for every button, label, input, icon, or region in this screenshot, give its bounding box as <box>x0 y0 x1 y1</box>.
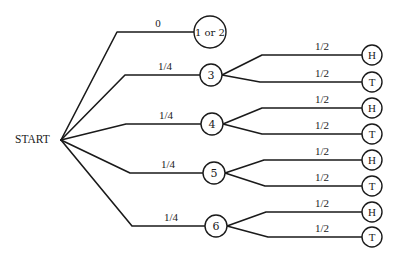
outcome-probability-label: 1/2 <box>315 40 329 52</box>
outcome-probability-label: 1/2 <box>315 67 329 79</box>
outcome-node-3-T: T <box>362 72 382 92</box>
outcome-probability-label: 1/2 <box>315 93 329 105</box>
outcome-edge-3-T <box>222 75 362 82</box>
outcome-edge-6-T <box>227 226 362 237</box>
outcome-probability-label: 1/2 <box>315 171 329 183</box>
branch-edge-4 <box>61 140 203 173</box>
branch-edge-2 <box>61 75 200 140</box>
heads-label: H <box>368 154 376 166</box>
branch-probability-label: 1/4 <box>159 109 174 121</box>
branch-probability-label: 0 <box>155 17 161 29</box>
node-1-or-2: 1 or 2 <box>194 16 226 48</box>
outcome-edge-4-T <box>223 124 362 134</box>
branch-probability-label: 1/4 <box>161 158 176 170</box>
tree-svg: 01/41/41/41/41/21/21/21/21/21/21/21/2 1 … <box>0 0 406 261</box>
node-5: 5 <box>203 162 225 184</box>
node-label: 3 <box>208 69 215 82</box>
branch-edge-3 <box>61 124 201 140</box>
node-6: 6 <box>205 215 227 237</box>
start-label: START <box>15 133 50 145</box>
outcome-edge-6-H <box>227 212 362 226</box>
outcome-node-4-T: T <box>362 124 382 144</box>
node-label: 1 or 2 <box>195 27 225 38</box>
outcome-probability-label: 1/2 <box>315 222 329 234</box>
outcome-edge-4-H <box>223 108 362 124</box>
heads-label: H <box>368 206 376 218</box>
heads-label: H <box>368 49 376 61</box>
labels-layer: 01/41/41/41/41/21/21/21/21/21/21/21/2 <box>155 17 329 234</box>
node-label: 6 <box>213 220 220 233</box>
outcome-probability-label: 1/2 <box>315 197 329 209</box>
outcome-node-3-H: H <box>362 45 382 65</box>
outcome-edge-5-T <box>225 173 362 186</box>
outcome-node-6-H: H <box>362 202 382 222</box>
outcome-probability-label: 1/2 <box>315 145 329 157</box>
outcome-edge-3-H <box>222 55 362 75</box>
tails-label: T <box>369 76 376 88</box>
node-label: 4 <box>209 118 216 131</box>
outcome-node-5-T: T <box>362 176 382 196</box>
node-label: 5 <box>211 167 218 180</box>
node-3: 3 <box>200 64 222 86</box>
branch-probability-label: 1/4 <box>164 211 179 223</box>
outcome-probability-label: 1/2 <box>315 119 329 131</box>
branch-edge-5 <box>61 140 205 226</box>
heads-label: H <box>368 102 376 114</box>
outcome-edge-5-H <box>225 160 362 173</box>
branch-probability-label: 1/4 <box>158 60 173 72</box>
outcome-node-5-H: H <box>362 150 382 170</box>
probability-tree-diagram: 01/41/41/41/41/21/21/21/21/21/21/21/2 1 … <box>0 0 406 261</box>
outcome-node-6-T: T <box>362 227 382 247</box>
tails-label: T <box>369 128 376 140</box>
tails-label: T <box>369 231 376 243</box>
tails-label: T <box>369 180 376 192</box>
node-4: 4 <box>201 113 223 135</box>
outcome-node-4-H: H <box>362 98 382 118</box>
